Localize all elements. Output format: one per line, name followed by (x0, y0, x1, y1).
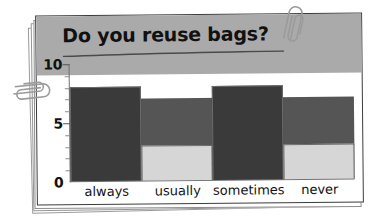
x-label-never: never (301, 182, 338, 197)
y-tick-10 (63, 64, 70, 65)
bar-series (70, 97, 355, 182)
worksheet-scene: Do you reuse bags? 10 5 0 (0, 0, 373, 223)
bar-sometimes[interactable] (212, 85, 284, 180)
x-axis-labels: always usually sometimes never (70, 182, 355, 205)
paper-clip-left-icon (8, 74, 56, 104)
y-tick-label-10: 10 (43, 57, 63, 71)
title-underline (62, 50, 284, 57)
y-tick-label-0: 0 (54, 175, 64, 189)
chart-card: Do you reuse bags? 10 5 0 (35, 12, 364, 205)
bar-always[interactable] (70, 87, 142, 181)
plot-area (69, 62, 355, 183)
bar-never[interactable] (283, 144, 354, 180)
y-tick-label-5: 5 (53, 116, 63, 130)
y-tick-5 (63, 123, 70, 124)
x-label-usually: usually (155, 183, 201, 198)
x-label-always: always (84, 184, 129, 199)
bar-chart: Do you reuse bags? 10 5 0 (36, 13, 364, 75)
chart-title: Do you reuse bags? (62, 22, 269, 46)
bar-usually[interactable] (141, 145, 212, 181)
y-tick-9 (65, 76, 70, 77)
x-label-sometimes: sometimes (213, 182, 285, 198)
paper-clip-top-icon (276, 0, 310, 46)
